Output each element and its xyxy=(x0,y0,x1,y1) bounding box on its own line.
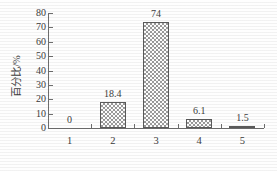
y-axis-tick-label: 70 xyxy=(26,22,46,32)
x-axis-tick-label: 2 xyxy=(110,134,115,148)
bar-value-label: 1.5 xyxy=(236,113,249,123)
y-axis-tick-label: 40 xyxy=(26,66,46,76)
x-axis-tick-labels: 12345 xyxy=(48,134,264,150)
y-axis-tick-labels: 01020304050607080 xyxy=(26,13,46,129)
x-axis-tick-label: 3 xyxy=(153,134,158,148)
x-axis-tick-mark xyxy=(264,124,265,128)
bar-value-label: 6.1 xyxy=(193,106,206,116)
y-axis-title: 百分比/% xyxy=(10,40,24,112)
bar-series: 018.4746.11.5 xyxy=(48,13,264,128)
bar xyxy=(186,119,212,128)
bar-group: 18.4 xyxy=(91,13,134,128)
bar-value-label: 0 xyxy=(67,115,72,125)
bar-group: 6.1 xyxy=(178,13,221,128)
bar-group: 74 xyxy=(134,13,177,128)
plot-area: 018.4746.11.5 xyxy=(48,13,264,129)
bar-chart: 百分比/% 01020304050607080 018.4746.11.5 12… xyxy=(0,0,277,171)
y-axis-tick-label: 0 xyxy=(26,123,46,133)
bar xyxy=(229,126,255,128)
y-axis-tick-label: 60 xyxy=(26,37,46,47)
y-axis-tick-label: 10 xyxy=(26,109,46,119)
y-axis-tick-mark xyxy=(49,128,53,129)
y-axis-tick-label: 50 xyxy=(26,51,46,61)
x-axis-tick-label: 1 xyxy=(67,134,72,148)
x-axis-line xyxy=(48,128,264,129)
bar xyxy=(100,102,126,128)
bar-value-label: 18.4 xyxy=(104,89,122,99)
x-axis-tick-label: 5 xyxy=(240,134,245,148)
y-axis-tick-label: 80 xyxy=(26,8,46,18)
x-axis-tick-label: 4 xyxy=(197,134,202,148)
y-axis-tick-label: 30 xyxy=(26,80,46,90)
bar-group: 1.5 xyxy=(221,13,264,128)
bar-value-label: 74 xyxy=(151,9,161,19)
y-axis-tick-label: 20 xyxy=(26,94,46,104)
bar xyxy=(143,22,169,128)
bar-group: 0 xyxy=(48,13,91,128)
